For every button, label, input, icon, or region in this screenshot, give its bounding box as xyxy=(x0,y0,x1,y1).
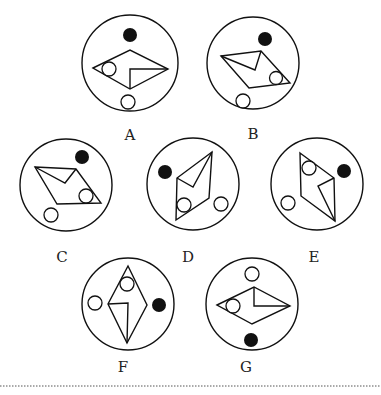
figure-g-black-dot xyxy=(244,333,258,347)
figure-e-inner-circle xyxy=(302,161,316,175)
figure-a-label: A xyxy=(124,126,136,144)
figure-e-black-dot xyxy=(337,164,351,178)
figure-f: F xyxy=(82,258,174,376)
figure-a-black-dot xyxy=(123,28,137,42)
figure-d-inner-circle xyxy=(177,198,191,212)
figure-d-label: D xyxy=(182,248,194,266)
figure-c: C xyxy=(20,139,112,266)
figure-d-black-dot xyxy=(158,165,172,179)
figure-c-inner-circle xyxy=(79,189,93,203)
figure-a-outer-circle xyxy=(121,95,135,109)
figure-e-outer-circle xyxy=(281,196,295,210)
figure-c-black-dot xyxy=(75,150,89,164)
figure-b-label: B xyxy=(247,125,258,143)
figure-e-label: E xyxy=(309,248,320,266)
figure-a-inner-circle xyxy=(102,62,116,76)
figure-b-inner-circle xyxy=(270,72,283,85)
figure-f-outer-circle xyxy=(88,296,102,310)
figure-g-label: G xyxy=(240,358,252,376)
puzzle-diagram: A B C D E xyxy=(0,0,381,395)
figure-b-outer-circle xyxy=(236,94,250,108)
figure-c-ring xyxy=(20,139,112,231)
figure-d-notch xyxy=(177,152,212,187)
figure-g-inner-circle xyxy=(226,299,240,313)
figure-a: A xyxy=(82,15,178,144)
figure-f-black-dot xyxy=(152,298,166,312)
figure-e: E xyxy=(271,138,363,266)
figure-b-ring xyxy=(207,17,299,109)
figure-e-ring xyxy=(271,138,363,230)
figure-b: B xyxy=(207,17,299,143)
figure-d: D xyxy=(147,138,239,266)
figure-f-label: F xyxy=(118,358,128,376)
figure-b-black-dot xyxy=(258,32,272,46)
figure-c-label: C xyxy=(56,248,67,266)
figure-c-outer-circle xyxy=(44,208,58,222)
figure-g: G xyxy=(206,258,298,376)
figure-d-ring xyxy=(147,138,239,230)
figure-g-outer-circle xyxy=(245,267,259,281)
figure-d-outer-circle xyxy=(214,197,228,211)
figure-f-inner-circle xyxy=(120,277,134,291)
